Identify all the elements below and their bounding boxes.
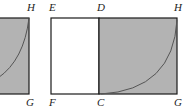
- left-figure: H G: [0, 1, 36, 108]
- label-G: G: [174, 96, 182, 108]
- label-left-G: G: [26, 96, 34, 108]
- label-F: F: [48, 96, 56, 108]
- label-E: E: [48, 1, 56, 13]
- label-D: D: [96, 1, 105, 13]
- left-shaded-region: [0, 18, 29, 94]
- rectangle-EFCD: [51, 18, 99, 94]
- geometry-diagram: H G E D H F C G: [0, 0, 186, 110]
- rectangle-DCGH-shaded: [99, 18, 177, 94]
- label-left-H: H: [26, 1, 36, 13]
- right-figure: E D H F C G: [48, 1, 183, 108]
- label-C: C: [97, 96, 105, 108]
- label-H: H: [173, 1, 183, 13]
